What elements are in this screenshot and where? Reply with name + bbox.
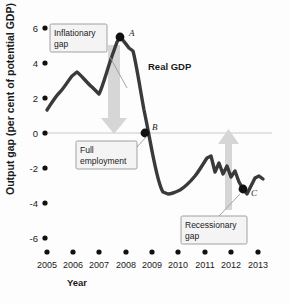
- y-tick-dot-0: [42, 130, 47, 135]
- x-tick-dot-2012: [228, 249, 233, 254]
- inflationary-gap-line2: gap: [54, 39, 68, 49]
- y-tick-dot-m4: [42, 200, 47, 205]
- callout-full-employment: Full employment: [76, 136, 147, 169]
- y-tick-label-minus6: -6: [30, 233, 38, 244]
- x-tick-label-2009: 2009: [142, 260, 162, 270]
- y-tick-label-minus2: -2: [30, 163, 38, 174]
- output-gap-chart: 6 4 2 0 -2 -4 -6 2005 2006 2007 2008 20: [0, 0, 290, 303]
- x-axis-ticks: [44, 249, 260, 254]
- x-tick-label-2005: 2005: [37, 260, 57, 270]
- x-tick-label-2011: 2011: [195, 260, 214, 270]
- full-employment-line2: employment: [80, 156, 127, 166]
- x-tick-dot-2005: [44, 249, 49, 254]
- x-tick-dot-2006: [70, 249, 75, 254]
- x-tick-dot-2011: [202, 249, 207, 254]
- x-tick-dot-2013: [255, 249, 260, 254]
- y-tick-dot-6: [42, 25, 47, 30]
- y-tick-label-4: 4: [33, 58, 38, 69]
- y-tick-label-minus4: -4: [30, 198, 38, 209]
- y-axis-tick-labels: 6 4 2 0 -2 -4 -6: [30, 23, 38, 244]
- full-employment-line1: Full: [80, 145, 94, 155]
- point-b-marker: [141, 129, 150, 138]
- full-employment-leader: [137, 136, 147, 147]
- x-tick-label-2010: 2010: [168, 260, 188, 270]
- y-tick-label-6: 6: [33, 23, 38, 34]
- y-axis-ticks: [42, 25, 47, 240]
- point-a-marker: [116, 33, 125, 42]
- x-tick-label-2012: 2012: [221, 260, 241, 270]
- x-axis-tick-labels: 2005 2006 2007 2008 2009 2010 2011 2012 …: [37, 260, 268, 270]
- x-tick-label-2006: 2006: [63, 260, 83, 270]
- chart-canvas: 6 4 2 0 -2 -4 -6 2005 2006 2007 2008 20: [0, 0, 290, 303]
- x-tick-label-2008: 2008: [116, 260, 136, 270]
- y-axis-title: Output gap (per cent of potential GDP): [4, 3, 16, 195]
- x-tick-label-2007: 2007: [89, 260, 109, 270]
- y-tick-dot-2: [42, 95, 47, 100]
- x-tick-dot-2007: [96, 249, 101, 254]
- y-tick-dot-4: [42, 60, 47, 65]
- inflationary-gap-arrow: [101, 45, 127, 134]
- point-a-label: A: [128, 28, 135, 38]
- x-axis-title: Year: [67, 277, 87, 288]
- real-gdp-label-line1: Real GDP: [148, 61, 192, 72]
- point-c-marker: [239, 185, 248, 194]
- y-tick-dot-m6: [42, 235, 47, 240]
- inflationary-gap-line1: Inflationary: [54, 28, 96, 38]
- point-b-label: B: [152, 122, 158, 132]
- y-tick-label-0: 0: [33, 128, 38, 139]
- x-tick-dot-2009: [149, 249, 154, 254]
- callout-recessionary-gap: Recessionary gap: [181, 194, 247, 244]
- x-tick-dot-2010: [175, 249, 180, 254]
- y-tick-dot-m2: [42, 165, 47, 170]
- recessionary-gap-line1: Recessionary: [185, 220, 237, 230]
- y-tick-label-2: 2: [33, 93, 38, 104]
- recessionary-gap-line2: gap: [185, 231, 199, 241]
- point-c-label: C: [251, 188, 258, 198]
- x-tick-label-2013: 2013: [248, 260, 268, 270]
- x-tick-dot-2008: [123, 249, 128, 254]
